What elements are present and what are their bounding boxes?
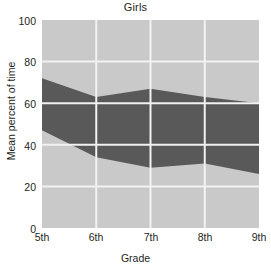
x-tick-6th: 6th [76,231,116,243]
y-axis-label: Mean percent of time [5,41,17,181]
x-tick-9th: 9th [239,231,271,243]
x-axis-label: Grade [0,252,271,264]
area-chart-svg [42,20,259,228]
x-tick-8th: 8th [185,231,225,243]
x-tick-5th: 5th [22,231,62,243]
y-tick-20: 20 [0,181,36,193]
chart-title: Girls [0,1,271,13]
plot-area [42,20,259,228]
chart-container: Girls Mean percent of time 100 80 60 40 … [0,0,271,266]
x-tick-7th: 7th [131,231,171,243]
y-tick-100: 100 [0,15,36,27]
